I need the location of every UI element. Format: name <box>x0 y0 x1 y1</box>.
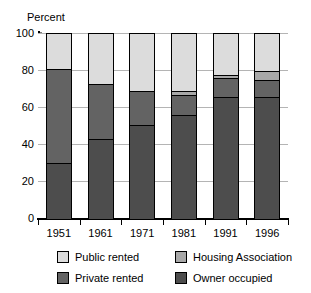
x-tick-label-1981: 1981 <box>172 227 196 239</box>
y-tick-label: 60 <box>22 101 34 113</box>
bar-segment-owner-occupied[interactable] <box>214 97 238 219</box>
bar-segment-public-rented[interactable] <box>172 34 196 91</box>
bar-segment-public-rented[interactable] <box>89 34 113 84</box>
x-tick-mark <box>121 220 122 225</box>
bar-1971[interactable] <box>129 33 155 218</box>
bar-1951[interactable] <box>46 33 72 218</box>
x-tick-mark <box>80 220 81 225</box>
x-tick-label-1991: 1991 <box>213 227 237 239</box>
gridline <box>38 181 288 182</box>
x-tick-mark <box>246 220 247 225</box>
bar-segment-housing-association[interactable] <box>255 71 279 80</box>
plot-area <box>38 33 288 218</box>
legend-swatch-icon <box>175 272 187 284</box>
stacked-bar-chart: Percent 020406080100 1951196119711981199… <box>0 0 311 293</box>
x-tick-mark <box>205 220 206 225</box>
legend-label: Public rented <box>75 251 139 263</box>
x-tick-label-1996: 1996 <box>255 227 279 239</box>
legend-label: Private rented <box>75 272 143 284</box>
y-tick-label: 0 <box>28 212 34 224</box>
bar-1981[interactable] <box>171 33 197 218</box>
y-axis-title: Percent <box>27 11 65 23</box>
bar-segment-owner-occupied[interactable] <box>255 97 279 219</box>
bar-1991[interactable] <box>213 33 239 218</box>
bar-segment-private-rented[interactable] <box>214 78 238 97</box>
bar-segment-public-rented[interactable] <box>47 34 71 69</box>
legend-item-private-rented[interactable]: Private rented <box>57 272 175 284</box>
x-tick-mark <box>38 220 39 225</box>
legend-label: Housing Association <box>193 251 292 263</box>
y-tick-label: 20 <box>22 175 34 187</box>
x-tick-label-1951: 1951 <box>47 227 71 239</box>
gridline <box>38 70 288 71</box>
bar-segment-owner-occupied[interactable] <box>89 139 113 219</box>
legend-swatch-icon <box>57 272 69 284</box>
bar-segment-owner-occupied[interactable] <box>130 125 154 219</box>
y-tick-label: 80 <box>22 64 34 76</box>
bar-segment-owner-occupied[interactable] <box>172 115 196 219</box>
legend-label: Owner occupied <box>193 272 273 284</box>
bar-segment-private-rented[interactable] <box>130 91 154 124</box>
x-tick-mark <box>163 220 164 225</box>
chart-legend: Public rentedHousing AssociationPrivate … <box>57 246 297 288</box>
bar-segment-public-rented[interactable] <box>255 34 279 71</box>
bar-segment-public-rented[interactable] <box>130 34 154 91</box>
x-tick-label-1971: 1971 <box>130 227 154 239</box>
y-tick-label: 100 <box>16 27 34 39</box>
bar-segment-owner-occupied[interactable] <box>47 163 71 219</box>
legend-swatch-icon <box>175 251 187 263</box>
gridline <box>38 107 288 108</box>
bar-segment-private-rented[interactable] <box>172 95 196 115</box>
bar-segment-private-rented[interactable] <box>89 84 113 140</box>
legend-item-owner-occupied[interactable]: Owner occupied <box>175 272 297 284</box>
x-tick-mark <box>288 220 289 225</box>
y-tick-label: 40 <box>22 138 34 150</box>
bar-1996[interactable] <box>254 33 280 218</box>
bar-segment-private-rented[interactable] <box>47 69 71 163</box>
legend-swatch-icon <box>57 251 69 263</box>
bar-segment-public-rented[interactable] <box>214 34 238 75</box>
plot-background <box>38 33 288 218</box>
legend-item-housing-association[interactable]: Housing Association <box>175 251 297 263</box>
gridline <box>38 144 288 145</box>
legend-item-public-rented[interactable]: Public rented <box>57 251 175 263</box>
gridline <box>38 33 288 34</box>
bar-1961[interactable] <box>88 33 114 218</box>
x-tick-label-1961: 1961 <box>88 227 112 239</box>
bar-segment-private-rented[interactable] <box>255 80 279 97</box>
